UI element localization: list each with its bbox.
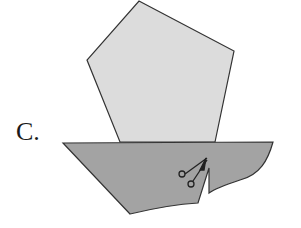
diagram bbox=[0, 0, 301, 228]
cut-base-shape bbox=[63, 142, 273, 214]
pentagon-shape bbox=[87, 1, 234, 142]
